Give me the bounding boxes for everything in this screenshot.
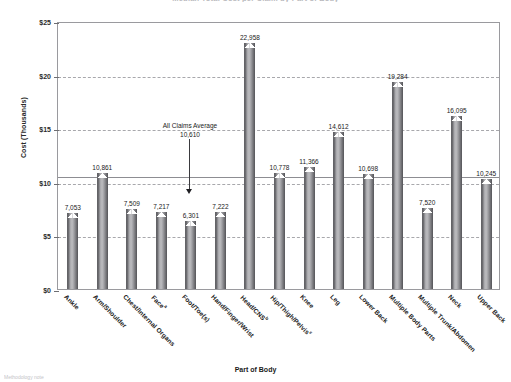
average-annotation-value: 10,610	[144, 130, 236, 139]
x-tick-label: Foot/Toe(s)	[181, 293, 211, 323]
bar-value-label: 7,217	[144, 203, 179, 210]
x-tick-label-superscript: b	[264, 316, 270, 322]
bar-slot: 7,520	[422, 23, 433, 289]
bar[interactable]	[451, 116, 462, 289]
x-tick-label: Facea	[151, 293, 169, 311]
bar-cap	[422, 208, 433, 213]
x-tick-label: Lower Back	[358, 293, 389, 324]
bar-value-label: 10,245	[469, 170, 504, 177]
bar-cap	[215, 212, 226, 217]
bar[interactable]	[274, 173, 285, 289]
bar-cap	[363, 174, 374, 179]
average-annotation-label: All Claims Average	[144, 121, 236, 130]
x-tick-label: Knee	[299, 293, 315, 309]
bar[interactable]	[97, 173, 108, 289]
x-tick-label: Neck	[447, 293, 463, 309]
bar-slot: 10,245	[481, 23, 492, 289]
bar[interactable]	[215, 212, 226, 289]
bar-value-label: 11,366	[292, 158, 327, 165]
average-annotation-arrow-icon	[186, 189, 192, 194]
bar-cap	[126, 209, 137, 214]
bar-cap	[333, 132, 344, 137]
bar[interactable]	[392, 82, 403, 289]
bar-value-label: 7,520	[410, 199, 445, 206]
bar-cap	[481, 179, 492, 184]
bar[interactable]	[481, 179, 492, 289]
bar-value-label: 16,095	[439, 107, 474, 114]
y-tick-label: $20	[0, 72, 55, 79]
bar-cap	[244, 43, 255, 48]
bar-value-label: 22,958	[232, 34, 267, 41]
bar-slot: 14,612	[333, 23, 344, 289]
bar-slot: 10,778	[274, 23, 285, 289]
bar-slot: 6,301	[185, 23, 196, 289]
x-axis-title: Part of Body	[0, 366, 511, 373]
bar[interactable]	[244, 43, 255, 289]
y-tick-label: $25	[0, 19, 55, 26]
chart-title: Median Total Cost per Claim by Part of B…	[0, 0, 511, 2]
y-tick-label: $10	[0, 179, 55, 186]
x-tick-label: Upper Back	[476, 293, 507, 324]
bar-series: 7,05310,8617,5097,2176,3017,22222,95810,…	[58, 23, 499, 289]
bar[interactable]	[333, 132, 344, 289]
bar-slot: 7,053	[67, 23, 78, 289]
bar[interactable]	[126, 209, 137, 289]
bar-cap	[97, 173, 108, 178]
bar-value-label: 10,861	[85, 164, 120, 171]
y-tick-label: $5	[0, 233, 55, 240]
bar-slot: 7,509	[126, 23, 137, 289]
bar-cap	[185, 221, 196, 226]
bar-value-label: 19,284	[380, 73, 415, 80]
bar-value-label: 6,301	[173, 212, 208, 219]
bar[interactable]	[156, 212, 167, 289]
y-axis-tick-labels: $0$5$10$15$20$25	[0, 22, 55, 290]
bar[interactable]	[185, 221, 196, 289]
x-tick-label: Multiple Trunk/Abdomen	[417, 293, 477, 353]
bar-cap	[156, 212, 167, 217]
x-axis-tick-labels: AnkleArm/ShoulderChest/Internal OrgansFa…	[57, 291, 500, 361]
bar-value-label: 14,612	[321, 123, 356, 130]
x-tick-label: Head/CNSb	[239, 293, 270, 324]
average-annotation-arrow-line	[189, 139, 190, 192]
bar-value-label: 7,053	[55, 204, 90, 211]
x-tick-label-superscript: c	[308, 330, 313, 335]
bar-slot: 19,284	[392, 23, 403, 289]
bar[interactable]	[363, 174, 374, 289]
average-annotation: All Claims Average 10,610	[144, 121, 236, 139]
bar-value-label: 7,222	[203, 203, 238, 210]
y-tick-label: $0	[0, 287, 55, 294]
x-tick-label: Chest/Internal Organs	[122, 293, 176, 347]
y-tick-label: $15	[0, 126, 55, 133]
bar-cap	[392, 82, 403, 87]
bar-slot: 7,217	[156, 23, 167, 289]
x-tick-label: Leg	[329, 293, 342, 306]
bar-slot: 22,958	[244, 23, 255, 289]
bar[interactable]	[304, 167, 315, 289]
footnote: Methodology note	[4, 374, 334, 382]
bar-cap	[451, 116, 462, 121]
bar-value-label: 10,698	[351, 165, 386, 172]
bar-slot: 10,698	[363, 23, 374, 289]
bar-slot: 11,366	[304, 23, 315, 289]
bar-cap	[67, 213, 78, 218]
bar-value-label: 10,778	[262, 164, 297, 171]
x-tick-label-superscript: a	[164, 304, 169, 309]
bar-slot: 10,861	[97, 23, 108, 289]
bar-cap	[274, 173, 285, 178]
bar-slot: 7,222	[215, 23, 226, 289]
bar[interactable]	[422, 208, 433, 289]
bar[interactable]	[67, 213, 78, 289]
x-tick-label: Ankle	[63, 293, 81, 311]
bar-slot: 16,095	[451, 23, 462, 289]
plot-area: 7,05310,8617,5097,2176,3017,22222,95810,…	[57, 22, 500, 290]
bar-cap	[304, 167, 315, 172]
